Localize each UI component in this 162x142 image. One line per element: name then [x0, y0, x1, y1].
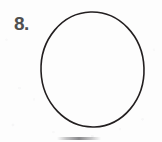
circle-figure	[0, 0, 162, 142]
worksheet-item: 8.	[0, 0, 162, 142]
circle-icon	[39, 10, 146, 129]
